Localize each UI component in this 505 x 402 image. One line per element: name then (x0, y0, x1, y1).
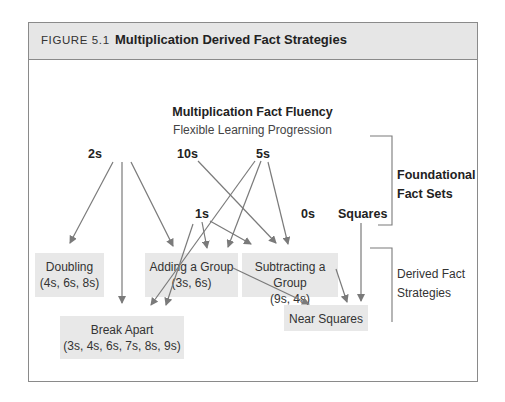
label-foundational-fact-sets: Foundational Fact Sets (397, 166, 475, 204)
arrow-subtracting-near-squares (336, 269, 347, 302)
label-derived-fact-strategies: Derived Fact Strategies (397, 265, 465, 303)
arrow-1s-break-apart (166, 224, 193, 305)
arrow-10s-subtracting (198, 161, 276, 243)
bracket-derived (370, 248, 392, 322)
arrow-2s-adding (131, 162, 173, 246)
arrow-1s-adding (202, 222, 207, 248)
bracket-foundational (370, 136, 392, 225)
label-line: Fact Sets (397, 185, 475, 204)
label-line: Derived Fact (397, 265, 465, 284)
arrow-2s-doubling (70, 162, 113, 243)
label-line: Foundational (397, 166, 475, 185)
arrow-adding-near-squares (233, 268, 309, 304)
arrow-5s-subtracting (268, 162, 288, 244)
label-line: Strategies (397, 284, 465, 303)
